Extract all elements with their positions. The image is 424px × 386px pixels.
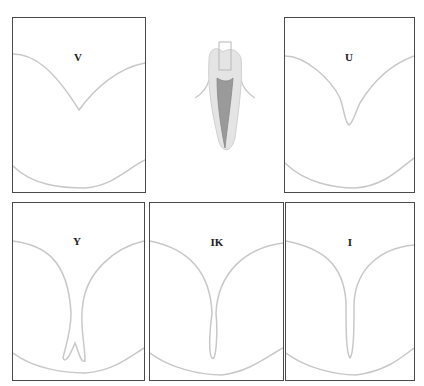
panel-ik-fissure: IK — [149, 202, 284, 381]
panel-y-fissure: Y — [12, 202, 145, 381]
panel-label: Y — [57, 235, 97, 247]
tooth-cross-section-icon — [195, 38, 255, 158]
panel-label: U — [329, 51, 369, 63]
panel-label: V — [58, 51, 98, 63]
panel-label: I — [330, 236, 370, 248]
v-fissure-outline — [13, 18, 145, 192]
panel-label: IK — [197, 236, 237, 248]
ik-fissure-outline — [150, 203, 283, 380]
panel-i-fissure: I — [285, 202, 415, 381]
panel-u-fissure: U — [284, 17, 415, 193]
panel-v-fissure: V — [12, 17, 146, 193]
u-fissure-outline — [285, 18, 414, 192]
i-fissure-outline — [286, 203, 414, 380]
y-fissure-outline — [13, 203, 144, 380]
